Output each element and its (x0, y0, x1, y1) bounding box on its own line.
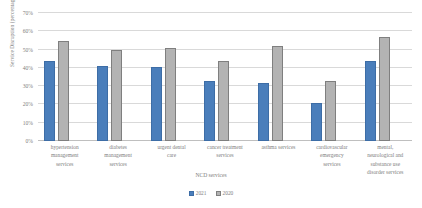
legend-swatch-icon (189, 191, 194, 196)
bar-group (91, 13, 144, 141)
y-axis-tick-labels: 0%10%20%30%40%50%60%70% (0, 13, 36, 141)
bar-group (359, 13, 412, 141)
x-axis-tick-label: asthma services (252, 143, 304, 151)
x-axis-tick-label: urgent dentalcare (146, 143, 198, 160)
legend-swatch-icon (216, 191, 221, 196)
bar-2021 (204, 81, 215, 141)
bar-2020 (111, 50, 122, 141)
bar-2020 (58, 41, 69, 141)
bars-layer (38, 13, 412, 141)
y-axis-tick-label: 60% (23, 28, 33, 34)
bar-group (145, 13, 198, 141)
x-axis-tick-label: cancer treatmentservices (199, 143, 251, 160)
bar-group (38, 13, 91, 141)
bar-group (198, 13, 251, 141)
y-axis-tick-label: 40% (23, 65, 33, 71)
bar-2020 (379, 37, 390, 141)
x-axis-tick-label: hypertensionmanagementservices (39, 143, 91, 168)
bar-2020 (218, 61, 229, 141)
y-axis-tick-label: 0% (26, 138, 33, 144)
x-axis-tick-label: diabetesmanagementservices (92, 143, 144, 168)
bar-2020 (165, 48, 176, 141)
chart-legend: 20212020 (0, 190, 422, 196)
x-axis-title: NCD services (0, 172, 422, 178)
bar-group (305, 13, 358, 141)
y-axis-tick-label: 20% (23, 101, 33, 107)
y-axis-tick-label: 30% (23, 83, 33, 89)
bar-group (252, 13, 305, 141)
bar-2021 (365, 61, 376, 141)
legend-entry[interactable]: 2020 (216, 190, 234, 196)
legend-label: 2020 (223, 190, 234, 196)
bar-2021 (151, 67, 162, 141)
y-axis-tick-label: 70% (23, 10, 33, 16)
y-axis-tick-label: 50% (23, 47, 33, 53)
legend-label: 2021 (196, 190, 207, 196)
bar-chart: Service Disruption (percentage) 0%10%20%… (0, 0, 422, 208)
bar-2020 (325, 81, 336, 141)
x-axis-tick-labels: hypertensionmanagementservicesdiabetesma… (38, 143, 412, 185)
bar-2021 (258, 83, 269, 141)
bar-2021 (44, 61, 55, 141)
x-axis-tick-label: cardiovascularemergencyservices (306, 143, 358, 168)
bar-2021 (311, 103, 322, 141)
y-axis-tick-label: 10% (23, 120, 33, 126)
legend-entry[interactable]: 2021 (189, 190, 207, 196)
bar-2020 (272, 46, 283, 141)
bar-2021 (97, 66, 108, 141)
